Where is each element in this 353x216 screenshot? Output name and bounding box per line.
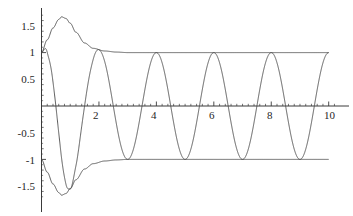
upper-envelope-curve [42, 17, 329, 53]
y-tick-label-1: 1 [0, 47, 35, 58]
axis-group [41, 8, 349, 212]
y-tick-label-1.5: 1.5 [0, 21, 35, 32]
x-tick-label-2: 2 [93, 110, 99, 121]
lower-envelope-curve [42, 159, 329, 195]
plot-svg-canvas [0, 0, 353, 216]
y-tick-label-minus-1.5: -1.5 [0, 181, 35, 192]
x-tick-label-4: 4 [151, 110, 157, 121]
x-tick-label-8: 8 [267, 110, 273, 121]
y-tick-label-minus-0.5: -0.5 [0, 128, 35, 139]
x-axis-ticks [47, 102, 334, 107]
x-tick-label-6: 6 [209, 110, 215, 121]
y-tick-label-0.5: 0.5 [0, 74, 35, 85]
y-tick-label-minus-1: -1 [0, 155, 35, 166]
chart-plot-area: 2 4 6 8 10 1.5 1 0.5 -0.5 -1 -1.5 [0, 0, 353, 216]
oscillation-curve [42, 49, 329, 189]
x-tick-label-10: 10 [324, 110, 335, 121]
